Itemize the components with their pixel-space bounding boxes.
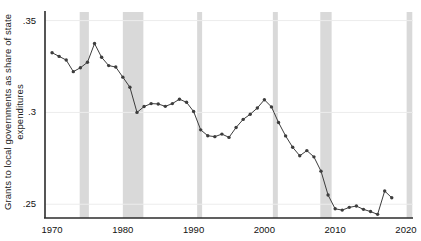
- x-axis-tick-label: 1980: [103, 224, 143, 235]
- data-point: [227, 136, 230, 139]
- data-point: [341, 208, 344, 211]
- data-point: [277, 121, 280, 124]
- x-axis-tick-label: 2010: [315, 224, 355, 235]
- recession-band: [407, 12, 413, 218]
- x-axis-tick-label: 2000: [244, 224, 284, 235]
- y-axis-tick-label: .35: [10, 15, 36, 26]
- data-point: [135, 111, 138, 114]
- recession-band: [80, 12, 89, 218]
- data-point: [241, 118, 244, 121]
- recession-band: [197, 12, 202, 218]
- data-point: [291, 146, 294, 149]
- data-point: [185, 101, 188, 104]
- data-point: [192, 110, 195, 113]
- y-axis-tick-label: .3: [10, 106, 36, 117]
- data-point: [333, 207, 336, 210]
- data-point: [312, 155, 315, 158]
- data-point: [50, 51, 53, 54]
- data-point: [100, 56, 103, 59]
- data-point: [199, 128, 202, 131]
- data-point: [256, 106, 259, 109]
- data-point: [107, 64, 110, 67]
- data-point: [376, 213, 379, 216]
- data-point: [121, 75, 124, 78]
- data-point: [355, 204, 358, 207]
- x-axis-tick-label: 1990: [174, 224, 214, 235]
- data-point: [369, 210, 372, 213]
- data-point: [305, 149, 308, 152]
- data-point: [128, 86, 131, 89]
- data-point: [171, 102, 174, 105]
- data-point: [213, 135, 216, 138]
- data-point: [72, 70, 75, 73]
- data-point: [65, 58, 68, 61]
- data-point: [390, 196, 393, 199]
- data-point: [284, 134, 287, 137]
- x-axis-tick-label: 1970: [32, 224, 72, 235]
- data-point: [270, 105, 273, 108]
- data-point: [164, 105, 167, 108]
- data-point: [298, 154, 301, 157]
- x-axis-tick-label: 2020: [386, 224, 421, 235]
- data-point: [383, 189, 386, 192]
- data-point: [319, 169, 322, 172]
- y-axis-tick-label: .25: [10, 198, 36, 209]
- data-markers-group: [50, 42, 393, 216]
- gridlines-group: [45, 21, 413, 205]
- recession-bands-group: [80, 12, 413, 218]
- data-point: [249, 113, 252, 116]
- recession-band: [123, 12, 144, 218]
- data-point: [326, 193, 329, 196]
- data-point: [114, 65, 117, 68]
- data-point: [57, 55, 60, 58]
- data-point: [234, 126, 237, 129]
- data-point: [362, 208, 365, 211]
- data-line: [52, 44, 392, 215]
- data-point: [157, 102, 160, 105]
- data-point: [220, 132, 223, 135]
- data-point: [149, 102, 152, 105]
- data-point: [142, 105, 145, 108]
- data-point: [86, 61, 89, 64]
- data-point: [263, 98, 266, 101]
- data-point: [348, 206, 351, 209]
- data-point: [178, 97, 181, 100]
- data-point: [206, 134, 209, 137]
- data-point: [79, 66, 82, 69]
- data-point: [93, 42, 96, 45]
